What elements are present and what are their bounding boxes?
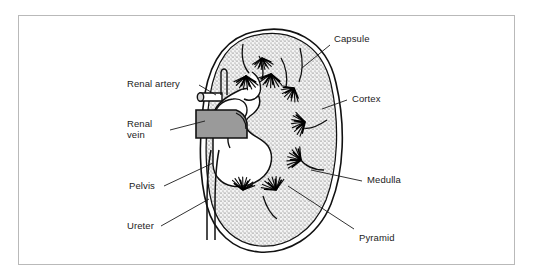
label-ureter: Ureter bbox=[127, 220, 154, 231]
kidney-body bbox=[196, 29, 342, 252]
leader-ureter bbox=[161, 199, 209, 226]
label-medulla: Medulla bbox=[367, 174, 401, 185]
label-cortex: Cortex bbox=[352, 93, 381, 104]
label-renal-artery: Renal artery bbox=[127, 78, 180, 89]
figure-canvas: Capsule Cortex Medulla Pyramid Renal art… bbox=[0, 0, 533, 279]
label-capsule: Capsule bbox=[334, 33, 370, 44]
label-renal-vein-line2: vein bbox=[127, 129, 145, 140]
label-pyramid: Pyramid bbox=[359, 232, 395, 243]
label-renal-vein-line1: Renal bbox=[127, 118, 152, 129]
label-pelvis: Pelvis bbox=[129, 180, 155, 191]
kidney-diagram bbox=[0, 0, 533, 279]
